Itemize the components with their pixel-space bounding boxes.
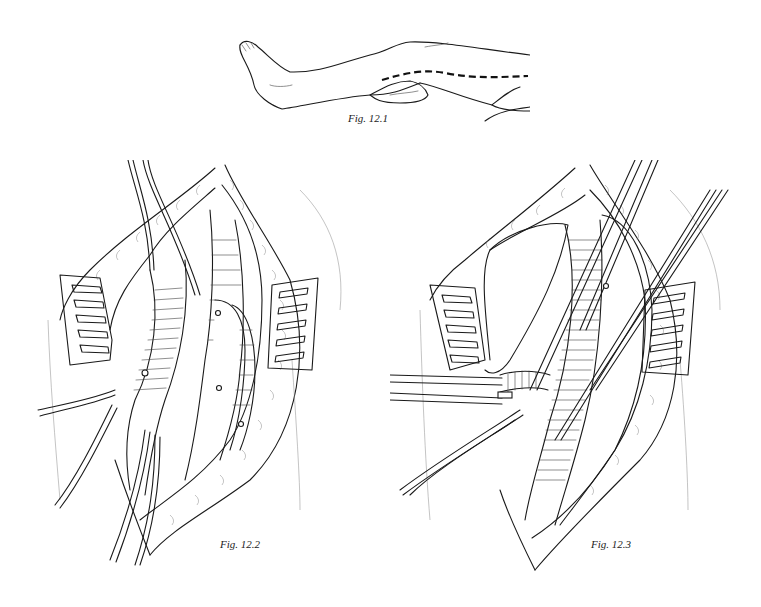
figure-12-1: Fig. 12.1 [230,25,530,125]
figure-caption: Fig. 12.2 [220,538,260,550]
surgical-exposure-illustration [390,160,761,600]
retractor-left [60,275,112,365]
leg-illustration [230,25,530,125]
figure-12-2: Fig. 12.2 [0,160,380,600]
figure-12-3: Fig. 12.3 [390,160,761,600]
figure-caption: Fig. 12.3 [591,538,631,550]
surgical-exposure-illustration [0,160,380,600]
figure-caption: Fig. 12.1 [348,112,388,124]
retractor-left [430,285,485,370]
